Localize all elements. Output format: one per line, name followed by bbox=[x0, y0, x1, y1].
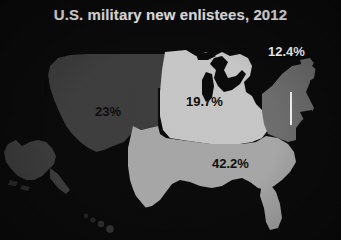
region-label-west: 23% bbox=[95, 104, 121, 119]
region-label-northeast: 12.4% bbox=[268, 44, 305, 59]
chart-screenshot: U.S. military new enlistees, 2012 bbox=[0, 0, 341, 240]
region-alaska[interactable] bbox=[4, 140, 56, 180]
region-west-lower-block bbox=[130, 88, 158, 130]
chart-title: U.S. military new enlistees, 2012 bbox=[0, 6, 341, 23]
northeast-leader-line bbox=[290, 92, 292, 125]
aleutian-islands bbox=[8, 180, 30, 191]
region-west-notch bbox=[134, 54, 165, 88]
florida-peninsula[interactable] bbox=[260, 182, 282, 230]
alaska-panhandle bbox=[50, 168, 70, 194]
us-choropleth-map bbox=[0, 30, 341, 240]
region-label-midwest: 19.7% bbox=[186, 94, 223, 109]
region-label-south: 42.2% bbox=[212, 156, 249, 171]
region-west[interactable] bbox=[48, 54, 141, 152]
map-svg bbox=[0, 30, 341, 240]
region-hawaii[interactable] bbox=[84, 214, 114, 233]
